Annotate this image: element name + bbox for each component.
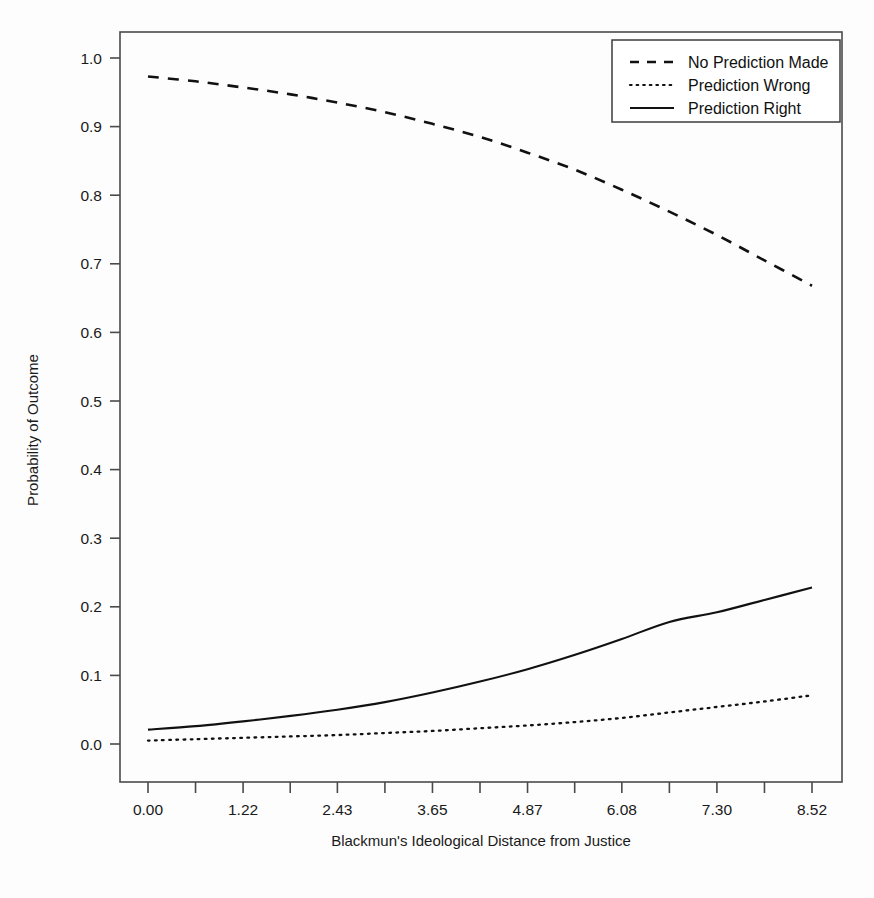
y-tick-label: 0.5 xyxy=(80,393,102,410)
series-line-prediction-wrong xyxy=(148,695,812,740)
legend-label: No Prediction Made xyxy=(688,54,829,71)
y-axis-tick-labels: 0.00.10.20.30.40.50.60.70.80.91.0 xyxy=(80,50,102,753)
y-tick-label: 0.6 xyxy=(80,324,102,341)
chart-canvas: 0.00.10.20.30.40.50.60.70.80.91.0 0.001.… xyxy=(0,0,874,898)
y-axis-title: Probability of Outcome xyxy=(24,354,41,506)
data-series-group xyxy=(148,77,812,741)
chart-figure: 0.00.10.20.30.40.50.60.70.80.91.0 0.001.… xyxy=(0,0,874,898)
x-axis-title: Blackmun's Ideological Distance from Jus… xyxy=(331,832,631,849)
y-tick-label: 0.9 xyxy=(80,118,102,135)
y-tick-label: 0.2 xyxy=(80,598,102,615)
y-tick-label: 0.0 xyxy=(80,736,102,753)
plot-frame xyxy=(120,32,842,782)
legend-label: Prediction Wrong xyxy=(688,77,810,94)
y-tick-label: 0.7 xyxy=(80,255,102,272)
chart-legend: No Prediction MadePrediction WrongPredic… xyxy=(612,40,840,122)
y-tick-label: 0.3 xyxy=(80,530,102,547)
legend-label: Prediction Right xyxy=(688,100,802,117)
x-axis-ticks xyxy=(148,782,812,793)
y-tick-label: 1.0 xyxy=(80,50,102,67)
x-tick-label: 1.22 xyxy=(228,801,258,818)
x-tick-label: 0.00 xyxy=(133,801,164,818)
x-axis-tick-labels: 0.001.222.433.654.876.087.308.52 xyxy=(133,801,827,818)
x-tick-label: 7.30 xyxy=(702,801,733,818)
y-axis-ticks xyxy=(110,58,120,744)
x-tick-label: 2.43 xyxy=(322,801,352,818)
x-tick-label: 3.65 xyxy=(417,801,447,818)
y-tick-label: 0.8 xyxy=(80,187,102,204)
x-tick-label: 8.52 xyxy=(797,801,827,818)
y-tick-label: 0.4 xyxy=(80,461,102,478)
series-line-prediction-right xyxy=(148,588,812,730)
x-tick-label: 6.08 xyxy=(607,801,637,818)
x-tick-label: 4.87 xyxy=(512,801,542,818)
y-tick-label: 0.1 xyxy=(80,667,102,684)
